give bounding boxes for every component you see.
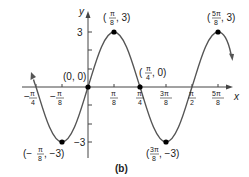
tick-3pi8-den: 8 <box>164 99 168 106</box>
label-peak-5pi8: ( 5π 8 , 3) <box>207 10 235 26</box>
label-trough-negpi8: (− π 8 , −3) <box>23 146 64 162</box>
point-trough-3pi8 <box>163 139 168 144</box>
svg-text:π: π <box>146 65 151 72</box>
svg-text:, −3): , −3) <box>159 148 179 159</box>
svg-text:, 3): , 3) <box>116 12 130 23</box>
tick-pi8-num: π <box>111 90 116 97</box>
point-zero-pi4 <box>137 84 142 89</box>
svg-text:4: 4 <box>146 74 150 81</box>
svg-text:, −3): , −3) <box>44 148 64 159</box>
svg-text:(−: (− <box>23 148 32 159</box>
y-tick-neg3: −3 <box>74 137 86 148</box>
svg-text:π: π <box>110 10 115 17</box>
label-trough-3pi8: ( 3π 8 , −3) <box>146 146 179 162</box>
y-axis-arrow-icon <box>86 11 91 18</box>
tick-negpi4-den: 4 <box>31 99 35 106</box>
point-peak-5pi8 <box>215 29 220 34</box>
tick-pi4-den: 4 <box>138 99 142 106</box>
tick-negpi4-num: π <box>30 90 35 97</box>
svg-text:(: ( <box>207 12 211 23</box>
svg-text:8: 8 <box>214 19 218 26</box>
tick-pi4-num: π <box>137 90 142 97</box>
tick-negpi8-minus: − <box>50 91 56 102</box>
tick-5pi8-den: 8 <box>216 99 220 106</box>
tick-3pi8-num: 3π <box>160 90 169 97</box>
curve-left-arrow-icon <box>31 72 37 80</box>
svg-text:8: 8 <box>38 155 42 162</box>
curve-right-arrow-icon <box>229 54 234 62</box>
y-tick-3: 3 <box>77 27 83 38</box>
y-axis-label: y <box>78 6 85 17</box>
svg-text:, 3): , 3) <box>221 12 235 23</box>
tick-negpi8-den: 8 <box>58 99 62 106</box>
svg-text:(: ( <box>139 67 143 78</box>
x-axis-arrow-icon <box>226 85 233 90</box>
tick-negpi8-num: π <box>57 90 62 97</box>
svg-text:8: 8 <box>110 19 114 26</box>
label-zero-pi4: ( π 4 , 0) <box>139 65 166 81</box>
label-origin: (0, 0) <box>63 71 86 82</box>
svg-text:3π: 3π <box>150 146 159 153</box>
x-axis-label: x <box>233 91 240 102</box>
svg-text:(: ( <box>103 12 107 23</box>
svg-text:5π: 5π <box>212 10 221 17</box>
svg-text:π: π <box>38 146 43 153</box>
point-trough-negpi8 <box>59 139 64 144</box>
x-tick-labels: − π 4 − π 8 π 8 π 4 3π 8 π 2 5π 8 <box>24 90 224 106</box>
point-origin <box>85 84 90 89</box>
tick-pi2-den: 2 <box>190 99 194 106</box>
point-peak-pi8 <box>111 29 116 34</box>
tick-pi2-num: π <box>189 90 194 97</box>
panel-label: (b) <box>115 163 128 174</box>
svg-text:8: 8 <box>152 155 156 162</box>
label-peak-pi8: ( π 8 , 3) <box>103 10 130 26</box>
svg-text:, 0): , 0) <box>152 67 166 78</box>
tick-5pi8-num: 5π <box>212 90 221 97</box>
tick-pi8-den: 8 <box>112 99 116 106</box>
chart: y x 3 −3 − π 4 − π 8 π 8 π 4 3π 8 π 2 5π… <box>0 0 249 177</box>
